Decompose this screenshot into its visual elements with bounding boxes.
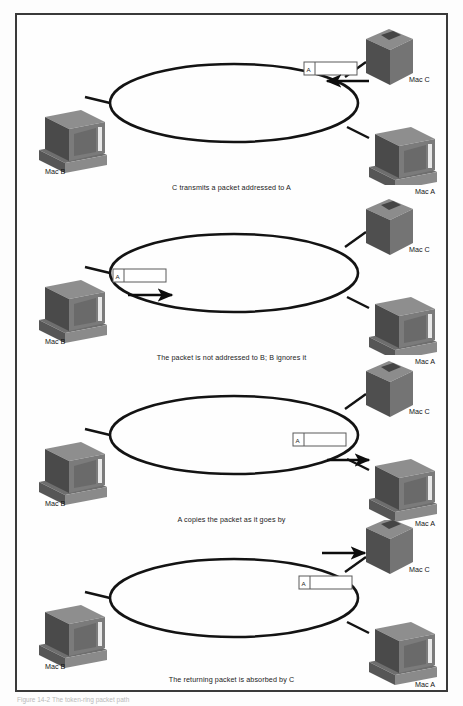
computer-icon-mac-c xyxy=(366,520,413,574)
computer-icon-mac-b xyxy=(39,280,107,343)
spoke-mac-a xyxy=(347,622,369,633)
spoke-mac-b xyxy=(85,97,110,103)
panel-caption: The returning packet is absorbed by C xyxy=(17,675,446,684)
spoke-mac-c xyxy=(345,232,366,247)
node-label-mac-b: Mac B xyxy=(45,167,65,176)
node-label-mac-c: Mac C xyxy=(409,565,430,574)
computer-icon-mac-a xyxy=(369,297,437,355)
spoke-mac-c xyxy=(345,394,366,409)
computer-icon-mac-a xyxy=(369,127,437,185)
panel-1: A Mac B Mac C Mac A C transmits a packet… xyxy=(17,15,446,185)
panel-3: A Mac B Mac C Mac A A copies the packet … xyxy=(17,355,446,525)
node-label-mac-b: Mac B xyxy=(45,337,65,346)
ring-ellipse xyxy=(110,559,358,637)
computer-icon-mac-a xyxy=(369,459,437,522)
computer-icon-mac-c xyxy=(366,15,413,85)
spoke-mac-b xyxy=(85,429,110,435)
panel-4: A Mac B Mac C Mac A The returning packet… xyxy=(17,520,446,690)
node-label-mac-c: Mac C xyxy=(409,75,430,84)
node-label-mac-c: Mac C xyxy=(409,407,430,416)
node-label-mac-b: Mac B xyxy=(45,662,65,671)
node-label-mac-c: Mac C xyxy=(409,245,430,254)
computer-icon-mac-b xyxy=(39,605,107,668)
spoke-mac-b xyxy=(85,592,110,598)
packet-frame: A xyxy=(293,433,346,446)
ring-ellipse xyxy=(110,64,358,142)
spoke-mac-a xyxy=(347,127,369,138)
packet-frame: A xyxy=(304,62,357,75)
figure-frame: A Mac B Mac C Mac A C transmits a packet… xyxy=(15,13,448,692)
figure-caption: Figure 14-2 The token-ring packet path xyxy=(17,696,129,703)
spoke-mac-a xyxy=(347,297,369,308)
spoke-mac-c xyxy=(345,557,366,572)
node-label-mac-b: Mac B xyxy=(45,499,65,508)
packet-frame: A xyxy=(113,269,166,282)
spoke-mac-b xyxy=(85,267,110,273)
computer-icon-mac-c xyxy=(366,355,413,417)
computer-icon-mac-c xyxy=(366,185,413,255)
panel-2: A Mac B Mac C Mac A The packet is not ad… xyxy=(17,185,446,355)
computer-icon-mac-b xyxy=(39,110,107,173)
packet-frame: A xyxy=(299,576,352,589)
computer-icon-mac-b xyxy=(39,442,107,505)
